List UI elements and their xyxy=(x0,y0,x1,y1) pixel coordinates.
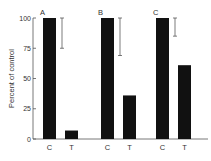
x-tick-label: C xyxy=(160,143,166,152)
x-tick-label: T xyxy=(182,143,187,152)
y-tick-label: 50 xyxy=(23,75,31,82)
x-tick-label: T xyxy=(127,143,132,152)
y-tick-label: 25 xyxy=(23,105,31,112)
panel-label: A xyxy=(40,8,45,17)
panel-label: B xyxy=(98,8,103,17)
bar xyxy=(156,18,169,139)
bar xyxy=(178,65,191,139)
y-tick-label: 0 xyxy=(27,136,31,143)
x-tick-label: C xyxy=(105,143,111,152)
y-axis-label: Percent of control xyxy=(7,49,16,108)
bar xyxy=(101,18,114,139)
panel-label: C xyxy=(153,8,159,17)
x-tick-label: C xyxy=(47,143,53,152)
bar xyxy=(43,18,56,139)
x-tick-label: T xyxy=(69,143,74,152)
bar xyxy=(65,131,78,139)
y-tick-label: 100 xyxy=(19,15,31,22)
bar-chart: 0255075100Percent of controlACTBCTCCT xyxy=(0,0,211,161)
y-tick-label: 75 xyxy=(23,45,31,52)
bar xyxy=(123,95,136,139)
